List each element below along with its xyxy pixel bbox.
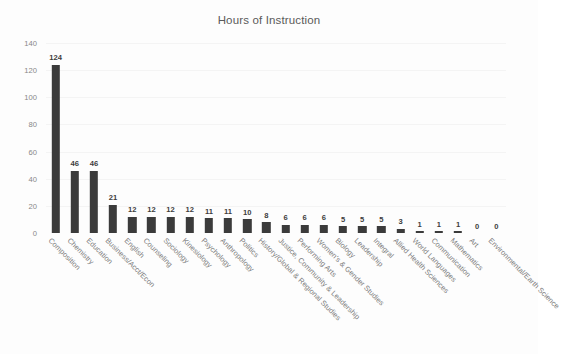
x-axis-category-label: Environmental/Earth Science (487, 236, 562, 311)
bar-slot[interactable]: 3 (391, 43, 410, 233)
bar-value-label: 21 (109, 193, 117, 202)
bar[interactable] (358, 226, 366, 233)
bar[interactable] (262, 222, 270, 233)
bar-value-label: 8 (264, 211, 268, 220)
y-axis-tick-label: 40 (29, 174, 37, 183)
bar[interactable] (416, 231, 424, 233)
bar-value-label: 10 (243, 208, 251, 217)
bar-slot[interactable]: 0 (487, 43, 506, 233)
bar-value-label: 12 (186, 205, 194, 214)
bar[interactable] (243, 219, 251, 233)
x-axis-category-label: Art (468, 236, 481, 249)
bar-slot[interactable]: 0 (468, 43, 487, 233)
bar-value-label: 1 (437, 220, 441, 229)
bar-value-label: 12 (166, 205, 174, 214)
bar-slot[interactable]: 11 (199, 43, 218, 233)
bar[interactable] (396, 229, 404, 233)
bar-slot[interactable]: 12 (180, 43, 199, 233)
bar[interactable] (109, 205, 117, 234)
bar-slot[interactable]: 12 (142, 43, 161, 233)
bar-slot[interactable]: 5 (353, 43, 372, 233)
bar-slot[interactable]: 21 (104, 43, 123, 233)
bar[interactable] (71, 171, 79, 233)
bar[interactable] (166, 217, 174, 233)
bar-value-label: 0 (494, 222, 498, 231)
bar-slot[interactable]: 5 (372, 43, 391, 233)
bar-slot[interactable]: 46 (65, 43, 84, 233)
bar-slot[interactable]: 6 (295, 43, 314, 233)
plot-area: 124464621121212121111108666555311100 (46, 43, 506, 233)
bar-value-label: 6 (283, 213, 287, 222)
bar[interactable] (205, 218, 213, 233)
bar-slot[interactable]: 6 (276, 43, 295, 233)
bar-value-label: 11 (205, 207, 213, 216)
bar-slot[interactable]: 12 (123, 43, 142, 233)
bar-slot[interactable]: 8 (257, 43, 276, 233)
x-axis-labels: CompositionChemistryEducationBusiness/Ac… (46, 236, 506, 354)
y-axis-tick-label: 0 (33, 229, 37, 238)
bar-slot[interactable]: 6 (314, 43, 333, 233)
y-axis-tick-label: 60 (29, 147, 37, 156)
bar-slot[interactable]: 10 (238, 43, 257, 233)
bar[interactable] (128, 217, 136, 233)
bar-value-label: 6 (322, 213, 326, 222)
bar-value-label: 11 (224, 207, 232, 216)
bar-value-label: 46 (90, 159, 98, 168)
bar-value-label: 5 (341, 215, 345, 224)
y-axis-tick-label: 20 (29, 201, 37, 210)
bar-value-label: 0 (475, 222, 479, 231)
bar-slot[interactable]: 124 (46, 43, 65, 233)
bar-slot[interactable]: 1 (410, 43, 429, 233)
bar-value-label: 46 (71, 159, 79, 168)
bar[interactable] (320, 225, 328, 233)
bar-value-label: 12 (147, 205, 155, 214)
bar-value-label: 6 (303, 213, 307, 222)
y-axis-tick-label: 100 (24, 93, 37, 102)
chart-title: Hours of Instruction (0, 14, 538, 26)
bar-slot[interactable]: 1 (429, 43, 448, 233)
bar[interactable] (377, 226, 385, 233)
bar[interactable] (186, 217, 194, 233)
bar[interactable] (281, 225, 289, 233)
bar-value-label: 1 (456, 220, 460, 229)
bar[interactable] (147, 217, 155, 233)
bar-slot[interactable]: 11 (219, 43, 238, 233)
y-axis-tick-label: 80 (29, 120, 37, 129)
bar-slot[interactable]: 12 (161, 43, 180, 233)
bar[interactable] (339, 226, 347, 233)
bar-slot[interactable]: 1 (449, 43, 468, 233)
bar-value-label: 5 (360, 215, 364, 224)
y-axis-tick-label: 140 (24, 39, 37, 48)
bar-value-label: 5 (379, 215, 383, 224)
bar[interactable] (301, 225, 309, 233)
bar-slot[interactable]: 46 (84, 43, 103, 233)
bar-value-label: 124 (49, 53, 62, 62)
bar-value-label: 3 (398, 217, 402, 226)
bar-value-label: 12 (128, 205, 136, 214)
bar-value-label: 1 (418, 220, 422, 229)
bar[interactable] (51, 65, 59, 233)
bar[interactable] (224, 218, 232, 233)
y-axis: 020406080100120140 (0, 43, 44, 233)
bar[interactable] (454, 231, 462, 233)
bar[interactable] (435, 231, 443, 233)
bar-slot[interactable]: 5 (334, 43, 353, 233)
bar[interactable] (90, 171, 98, 233)
y-axis-tick-label: 120 (24, 66, 37, 75)
